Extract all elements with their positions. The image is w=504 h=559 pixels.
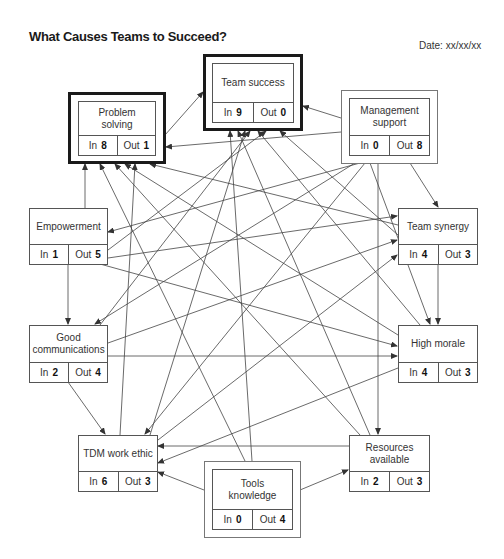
out-count: Out4 — [68, 363, 107, 382]
in-count: In8 — [79, 136, 117, 155]
node-management-support-card: Management support In0 Out8 — [349, 98, 430, 156]
node-counts: In4 Out3 — [399, 244, 477, 264]
out-count: Out3 — [389, 472, 429, 491]
out-label: Out — [397, 140, 413, 151]
node-counts: In1 Out5 — [30, 244, 107, 264]
in-count: In4 — [399, 245, 438, 264]
in-count: In4 — [399, 363, 438, 382]
out-count: Out3 — [438, 363, 478, 382]
out-value: 5 — [95, 249, 101, 260]
node-empowerment-card: Empowerment In1 Out5 — [29, 208, 108, 265]
in-label: In — [40, 249, 48, 260]
node-team-success[interactable]: Team success In9 Out0 — [203, 54, 303, 131]
in-label: In — [89, 140, 97, 151]
node-management-support[interactable]: Management support In0 Out8 — [341, 90, 438, 164]
node-resources-available-card: Resources available In2 Out3 — [349, 435, 430, 492]
out-label: Out — [125, 476, 141, 487]
node-resources-available[interactable]: Resources available In2 Out3 — [349, 435, 430, 492]
out-value: 1 — [144, 140, 150, 151]
out-value: 4 — [95, 367, 101, 378]
node-counts: In9 Out0 — [213, 102, 293, 122]
node-label: Tools knowledge — [213, 470, 292, 509]
node-label: TDM work ethic — [79, 436, 157, 471]
in-label: In — [361, 476, 369, 487]
node-problem-solving[interactable]: Problem solving In8 Out1 — [68, 92, 166, 164]
node-team-synergy[interactable]: Team synergy In4 Out3 — [398, 208, 478, 265]
in-label: In — [89, 476, 97, 487]
node-counts: In2 Out4 — [30, 362, 107, 382]
in-count: In2 — [350, 472, 389, 491]
node-counts: In0 Out8 — [350, 135, 429, 155]
in-value: 0 — [373, 140, 379, 151]
out-count: Out3 — [438, 245, 478, 264]
out-value: 4 — [280, 514, 286, 525]
node-counts: In2 Out3 — [350, 471, 429, 491]
out-count: Out0 — [253, 103, 294, 122]
node-problem-solving-card: Problem solving In8 Out1 — [78, 101, 156, 156]
node-counts: In8 Out1 — [79, 135, 155, 155]
in-value: 4 — [422, 249, 428, 260]
node-counts: In0 Out4 — [213, 509, 292, 529]
out-count: Out8 — [389, 136, 429, 155]
node-empowerment[interactable]: Empowerment In1 Out5 — [29, 208, 108, 265]
out-label: Out — [397, 476, 413, 487]
in-label: In — [361, 140, 369, 151]
out-count: Out1 — [117, 136, 156, 155]
node-team-synergy-card: Team synergy In4 Out3 — [398, 208, 478, 265]
out-count: Out4 — [252, 510, 292, 529]
in-count: In2 — [30, 363, 68, 382]
in-count: In9 — [213, 103, 253, 122]
in-label: In — [224, 514, 232, 525]
node-tdm-work-ethic[interactable]: TDM work ethic In6 Out3 — [78, 435, 158, 492]
node-label: Good communications — [30, 326, 107, 362]
node-label: Empowerment — [30, 209, 107, 244]
node-label: Resources available — [350, 436, 429, 471]
node-good-communications[interactable]: Good communications In2 Out4 — [29, 325, 108, 383]
node-tdm-work-ethic-card: TDM work ethic In6 Out3 — [78, 435, 158, 492]
in-value: 8 — [101, 140, 107, 151]
out-value: 3 — [465, 367, 471, 378]
node-label: Team synergy — [399, 209, 477, 244]
node-counts: In4 Out3 — [399, 362, 477, 382]
in-label: In — [224, 107, 232, 118]
in-value: 4 — [422, 367, 428, 378]
out-label: Out — [445, 249, 461, 260]
node-label: Management support — [350, 99, 429, 135]
node-label: Team success — [213, 64, 293, 102]
out-label: Out — [75, 249, 91, 260]
in-label: In — [409, 249, 417, 260]
node-good-communications-card: Good communications In2 Out4 — [29, 325, 108, 383]
in-value: 1 — [52, 249, 58, 260]
node-tools-knowledge[interactable]: Tools knowledge In0 Out4 — [204, 461, 301, 538]
node-counts: In6 Out3 — [79, 471, 157, 491]
in-value: 2 — [52, 367, 58, 378]
out-label: Out — [75, 367, 91, 378]
out-value: 0 — [281, 107, 287, 118]
out-value: 8 — [417, 140, 423, 151]
in-value: 2 — [373, 476, 379, 487]
in-count: In6 — [79, 472, 118, 491]
in-count: In1 — [30, 245, 68, 264]
out-count: Out5 — [68, 245, 107, 264]
in-count: In0 — [350, 136, 389, 155]
in-count: In0 — [213, 510, 252, 529]
node-label: High morale — [399, 326, 477, 362]
node-high-morale[interactable]: High morale In4 Out3 — [398, 325, 478, 383]
in-value: 9 — [236, 107, 242, 118]
out-value: 3 — [145, 476, 151, 487]
out-label: Out — [123, 140, 139, 151]
node-team-success-card: Team success In9 Out0 — [212, 63, 294, 123]
in-label: In — [40, 367, 48, 378]
in-value: 6 — [102, 476, 108, 487]
out-count: Out3 — [118, 472, 158, 491]
node-tools-knowledge-card: Tools knowledge In0 Out4 — [212, 469, 293, 530]
out-value: 3 — [465, 249, 471, 260]
out-label: Out — [445, 367, 461, 378]
out-label: Out — [260, 514, 276, 525]
out-value: 3 — [417, 476, 423, 487]
node-label: Problem solving — [79, 102, 155, 135]
in-value: 0 — [236, 514, 242, 525]
in-label: In — [409, 367, 417, 378]
node-high-morale-card: High morale In4 Out3 — [398, 325, 478, 383]
out-label: Out — [260, 107, 276, 118]
